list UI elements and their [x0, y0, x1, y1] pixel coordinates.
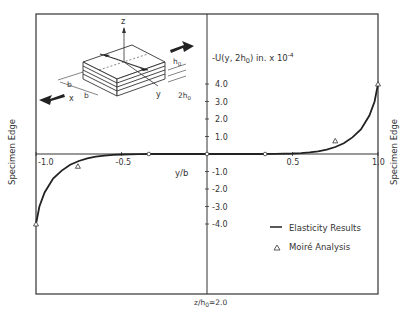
load-arrow-right-icon	[170, 41, 194, 53]
inset-z-label: z	[121, 17, 125, 26]
moire-triangle-marker	[333, 138, 338, 143]
y-tick-label: 4.0	[215, 80, 228, 89]
axis-circle-marker	[205, 152, 209, 156]
y-axis-label: -U(y, 2h0) in. x 10-4	[212, 51, 294, 65]
x-tick-label: -1.0	[38, 158, 54, 167]
y-tick-label: 3.0	[215, 98, 228, 107]
moire-triangle-marker	[75, 164, 80, 169]
inset-2h0-label: 2h0	[178, 91, 192, 101]
moire-triangle-marker	[376, 82, 381, 87]
y-tick-label: 2.0	[215, 115, 228, 124]
x-axis-label: y/b	[175, 168, 188, 178]
y-tick-label: -4.0	[212, 220, 228, 229]
right-edge-label: Specimen Edge	[389, 119, 399, 185]
moire-triangle-marker	[34, 222, 39, 227]
x-tick-label: 1.0	[372, 158, 385, 167]
y-tick-label: 1.0	[215, 133, 228, 142]
inset-y-label: y	[156, 90, 161, 99]
legend-label-elasticity: Elasticity Results	[289, 223, 361, 233]
specimen-diagram: z y b b x h0 2h0	[39, 17, 194, 105]
load-arrow-left-icon	[39, 94, 65, 105]
inset-x-label: x	[69, 94, 74, 103]
y-tick-label: -2.0	[212, 185, 228, 194]
condition-label: z/h0=2.0	[194, 298, 227, 308]
inset-h0-label: h0	[173, 57, 182, 67]
legend-label-moire: Moiré Analysis	[289, 242, 351, 252]
left-edge-label: Specimen Edge	[7, 119, 17, 185]
inset-b-label-2: b	[84, 91, 89, 100]
y-tick-label: -3.0	[212, 203, 228, 212]
inset-b-label-1: b	[67, 80, 72, 89]
legend: Elasticity Results Moiré Analysis	[270, 223, 361, 252]
axis-circle-marker	[263, 152, 267, 156]
y-tick-label: -1.0	[212, 168, 228, 177]
x-tick-label: 0.5	[287, 158, 300, 167]
x-tick-label: -0.5	[116, 158, 132, 167]
legend-triangle-symbol	[274, 245, 280, 250]
axis-circle-marker	[147, 152, 151, 156]
chart: -1.0-0.50.51.0 4.03.02.01.0-1.0-2.0-3.0-…	[0, 0, 410, 326]
